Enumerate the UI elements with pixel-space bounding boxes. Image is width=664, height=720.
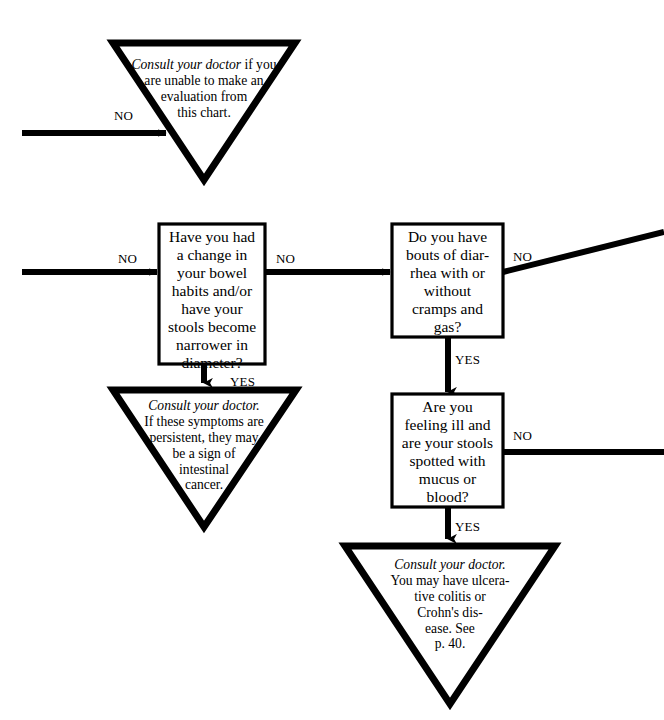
- triangle-consult-doctor-intestinal-cancer: [113, 390, 296, 527]
- flowchart-canvas: Consult your doctor if you are unable to…: [0, 0, 664, 720]
- edge-label-no-box3: NO: [513, 428, 532, 444]
- decision-box-bowel-habits: [159, 224, 265, 364]
- edge-label-yes-box3: YES: [455, 519, 480, 535]
- triangle-consult-doctor-colitis: [345, 546, 555, 704]
- edge-label-yes-box2: YES: [455, 352, 480, 368]
- decision-box-diarrhea: [392, 224, 503, 337]
- edge-label-no-top: NO: [114, 108, 133, 124]
- edge-label-yes-box1: YES: [230, 374, 255, 390]
- edge-label-no-box2: NO: [513, 249, 532, 265]
- decision-box-feeling-ill: [392, 394, 503, 507]
- edge-label-no-box1-in: NO: [118, 251, 137, 267]
- triangle-consult-doctor-chart: [113, 43, 295, 180]
- edge-label-no-box1-out: NO: [276, 251, 295, 267]
- flowchart-graphics: [0, 0, 664, 720]
